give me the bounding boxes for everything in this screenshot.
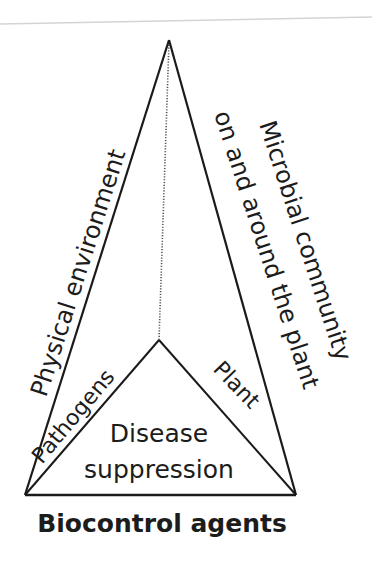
label-suppression: suppression	[84, 455, 234, 484]
hidden-edge-dotted	[159, 42, 169, 340]
label-biocontrol-agents: Biocontrol agents	[37, 509, 287, 538]
scan-edge-line	[0, 17, 372, 24]
label-physical-environment: Physical environment	[25, 146, 131, 400]
disease-tetrahedron-diagram: Physical environment Microbial community…	[0, 0, 372, 568]
label-disease: Disease	[110, 419, 208, 448]
